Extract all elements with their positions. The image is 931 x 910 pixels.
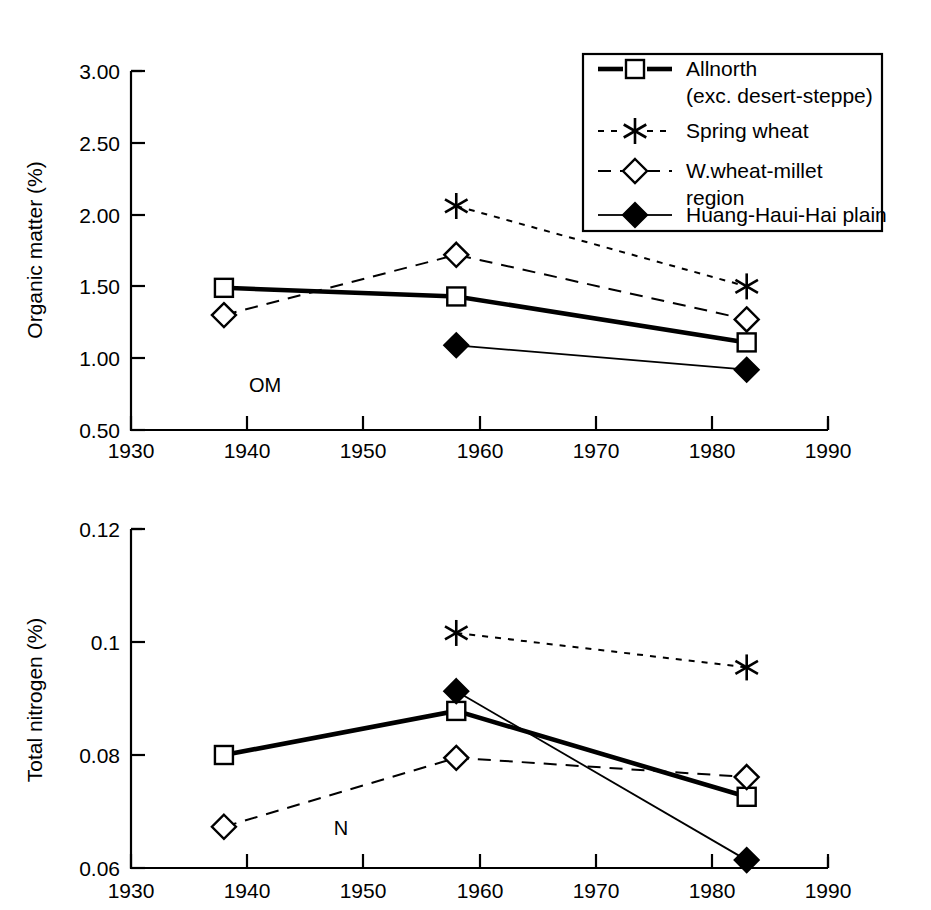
ytick-label-n-006: 0.06 (79, 857, 120, 880)
xtick-label-om-1960: 1960 (457, 439, 504, 462)
xtick-label-om-1990: 1990 (805, 439, 852, 462)
marker-asterisk (445, 193, 468, 219)
marker-open-square (215, 746, 233, 764)
series-3 (444, 333, 758, 381)
xtick-label-n-1990: 1990 (805, 879, 852, 902)
marker-open-diamond (444, 243, 468, 267)
series-line-3 (456, 345, 746, 369)
figure-container: 3.00 2.50 2.00 1.50 1.00 0.50 1930 1940 … (0, 0, 931, 910)
legend-label-0-line2: (exc. desert-steppe) (686, 84, 873, 107)
n-data-layer (212, 620, 759, 872)
marker-open-diamond (735, 765, 759, 789)
marker-open-diamond (212, 815, 236, 839)
y-ticks-om (131, 71, 145, 430)
legend: Allnorth(exc. desert-steppe)Spring wheat… (583, 54, 887, 231)
ytick-label-om-4: 1.00 (79, 347, 120, 370)
y-axis-title-om: Organic matter (%) (23, 161, 46, 338)
x-ticks-n (131, 854, 828, 868)
y-axis-title-n: Total nitrogen (%) (23, 618, 46, 783)
xtick-label-om-1940: 1940 (224, 439, 271, 462)
chart-total-nitrogen: 0.12 0.1 0.08 0.06 1930 1940 1950 1960 1… (23, 518, 851, 902)
xtick-label-om-1930: 1930 (108, 439, 155, 462)
annotation-om: OM (249, 374, 281, 396)
series-1 (445, 620, 758, 680)
marker-filled-diamond (735, 358, 759, 382)
marker-asterisk (445, 620, 468, 646)
ytick-label-n-01: 0.1 (91, 631, 120, 654)
y-ticks-n (131, 529, 145, 868)
marker-open-diamond (444, 746, 468, 770)
marker-open-diamond (735, 307, 759, 331)
xtick-label-n-1940: 1940 (224, 879, 271, 902)
charts-svg: 3.00 2.50 2.00 1.50 1.00 0.50 1930 1940 … (0, 0, 931, 910)
xtick-label-n-1960: 1960 (457, 879, 504, 902)
series-3 (444, 679, 758, 872)
xtick-label-n-1950: 1950 (340, 879, 387, 902)
xtick-label-om-1970: 1970 (573, 439, 620, 462)
ytick-label-n-012: 0.12 (79, 518, 120, 541)
axis-lines-n (131, 529, 828, 868)
ytick-label-om-1: 2.00 (79, 204, 120, 227)
marker-filled-diamond (444, 333, 468, 357)
marker-open-square (626, 60, 644, 78)
annotation-n: N (334, 817, 348, 839)
series-line-2 (224, 758, 747, 827)
ytick-label-om-2: 2.50 (79, 132, 120, 155)
marker-open-square (215, 279, 233, 297)
series-line-3 (456, 691, 746, 860)
marker-filled-diamond (444, 679, 468, 703)
xtick-label-n-1930: 1930 (108, 879, 155, 902)
marker-asterisk (735, 654, 758, 680)
xtick-label-n-1970: 1970 (573, 879, 620, 902)
series-0 (215, 702, 756, 806)
series-2 (212, 243, 759, 332)
x-ticks-om (131, 416, 828, 430)
marker-open-square (738, 333, 756, 351)
xtick-label-om-1950: 1950 (340, 439, 387, 462)
series-0 (215, 279, 756, 352)
series-line-0 (224, 711, 747, 797)
series-line-0 (224, 288, 747, 343)
marker-open-square (447, 287, 465, 305)
legend-label-3: Huang-Haui-Hai plain (686, 203, 887, 226)
series-line-2 (224, 255, 747, 320)
ytick-label-om-0: 1.50 (79, 275, 120, 298)
legend-label-0: Allnorth (686, 57, 757, 80)
legend-label-1: Spring wheat (686, 119, 809, 142)
series-line-1 (456, 633, 746, 667)
ytick-label-n-008: 0.08 (79, 744, 120, 767)
xtick-label-n-1980: 1980 (689, 879, 736, 902)
marker-asterisk (735, 273, 758, 299)
series-2 (212, 746, 759, 839)
legend-label-2: W.wheat-millet (686, 159, 823, 182)
xtick-label-om-1980: 1980 (689, 439, 736, 462)
ytick-label-om-3: 3.00 (79, 60, 120, 83)
marker-open-diamond (212, 303, 236, 327)
